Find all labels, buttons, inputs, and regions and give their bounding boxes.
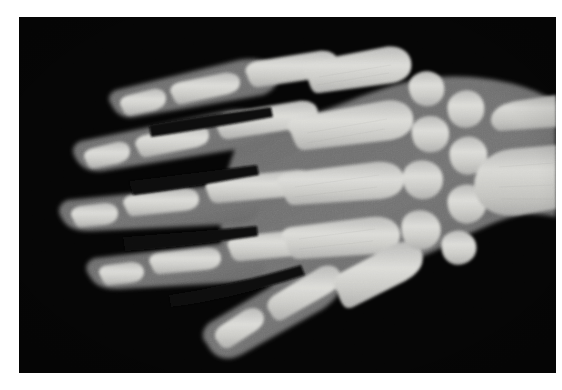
scaphoid-bone <box>447 90 484 128</box>
pisiform-bone <box>441 230 476 264</box>
hamate-bone <box>401 210 440 249</box>
trapezoid-bone <box>412 116 450 153</box>
xray-image <box>19 17 556 373</box>
xray-page: human left hand and distal forearm dorso… <box>0 0 562 390</box>
xray-film-frame <box>19 17 556 373</box>
capitate-bone <box>403 160 443 199</box>
